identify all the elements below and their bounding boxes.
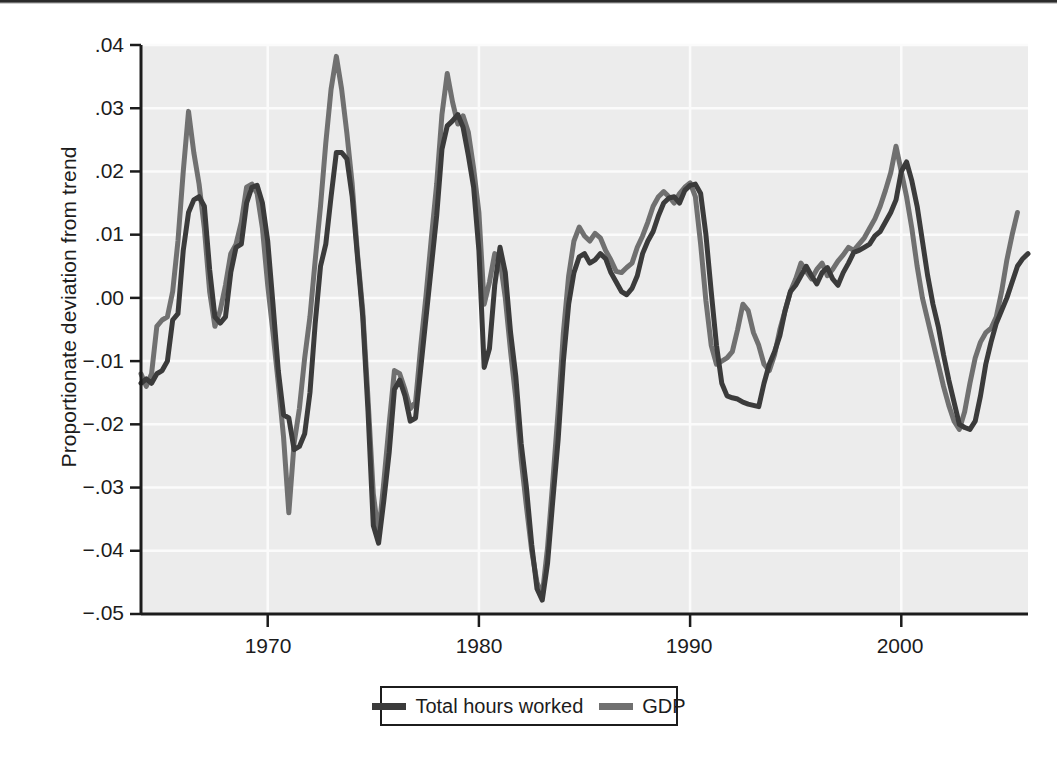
legend-entry-total-hours-worked: Total hours worked xyxy=(372,695,583,718)
y-tick-label-4: .00 xyxy=(46,286,124,310)
x-tick-label-2000: 2000 xyxy=(845,634,955,658)
legend-swatch-total-hours-worked xyxy=(372,703,406,710)
y-tick-label-3: .01 xyxy=(46,222,124,246)
y-tick-label-5: −.01 xyxy=(46,349,124,373)
chart-legend: Total hours worked GDP xyxy=(380,686,678,726)
x-tick-label-1970: 1970 xyxy=(213,634,323,658)
y-tick-label-6: −.02 xyxy=(46,412,124,436)
y-tick-label-9: −.05 xyxy=(46,601,124,625)
y-tick-label-8: −.04 xyxy=(46,538,124,562)
x-tick-label-1980: 1980 xyxy=(424,634,534,658)
legend-entry-gdp: GDP xyxy=(599,695,685,718)
legend-label-total-hours-worked: Total hours worked xyxy=(415,695,583,718)
y-tick-label-7: −.03 xyxy=(46,475,124,499)
legend-swatch-gdp xyxy=(599,703,633,710)
y-tick-label-1: .03 xyxy=(46,96,124,120)
y-tick-label-2: .02 xyxy=(46,159,124,183)
legend-label-gdp: GDP xyxy=(642,695,685,718)
x-tick-label-1990: 1990 xyxy=(634,634,744,658)
y-tick-label-0: .04 xyxy=(46,33,124,57)
chart-figure: Proportionate deviation from trend .04 .… xyxy=(0,0,1057,762)
